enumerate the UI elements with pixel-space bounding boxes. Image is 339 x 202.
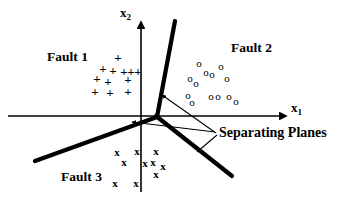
x1-axis-label: x1 (291, 101, 302, 114)
data-point-circle: o (208, 91, 214, 102)
x2-axis-label-base: x (120, 5, 127, 20)
data-point-cross: x (142, 158, 148, 169)
data-point-circle: o (233, 96, 239, 107)
leader-line-lower (197, 135, 217, 152)
data-point-cross: x (160, 161, 166, 172)
data-point-plus: + (124, 85, 131, 98)
figure-canvas: x2 x1 Fault 1 Fault 2 Fault 3 Separating… (0, 0, 339, 202)
x1-axis-label-sub: 1 (298, 107, 303, 117)
separating-planes-label: Separating Planes (219, 126, 327, 140)
data-point-plus: + (106, 86, 113, 99)
diagram-svg (0, 0, 339, 202)
data-point-plus: + (91, 85, 98, 98)
data-point-cross: x (114, 147, 120, 158)
x2-axis-label: x2 (120, 6, 131, 19)
data-point-cross: x (150, 157, 156, 168)
data-point-circle: o (187, 73, 193, 84)
data-point-circle: o (193, 78, 199, 89)
data-point-cross: x (153, 169, 159, 180)
data-point-circle: o (189, 97, 195, 108)
data-point-circle: o (224, 73, 230, 84)
fault-2-label: Fault 2 (231, 41, 272, 55)
data-point-circle: o (203, 67, 209, 78)
data-point-circle: o (196, 58, 202, 69)
data-point-cross: x (112, 178, 118, 189)
data-point-circle: o (218, 61, 224, 72)
data-point-cross: x (121, 157, 127, 168)
data-point-circle: o (215, 91, 221, 102)
data-point-circle: o (209, 69, 215, 80)
x2-axis-label-sub: 2 (127, 12, 132, 22)
data-point-cross: x (134, 146, 140, 157)
fault-1-label: Fault 1 (47, 50, 88, 64)
x1-axis-label-base: x (291, 100, 298, 115)
fault-3-label: Fault 3 (61, 170, 102, 184)
data-point-cross: x (133, 178, 139, 189)
data-point-plus: + (134, 65, 141, 78)
data-point-circle: o (226, 91, 232, 102)
